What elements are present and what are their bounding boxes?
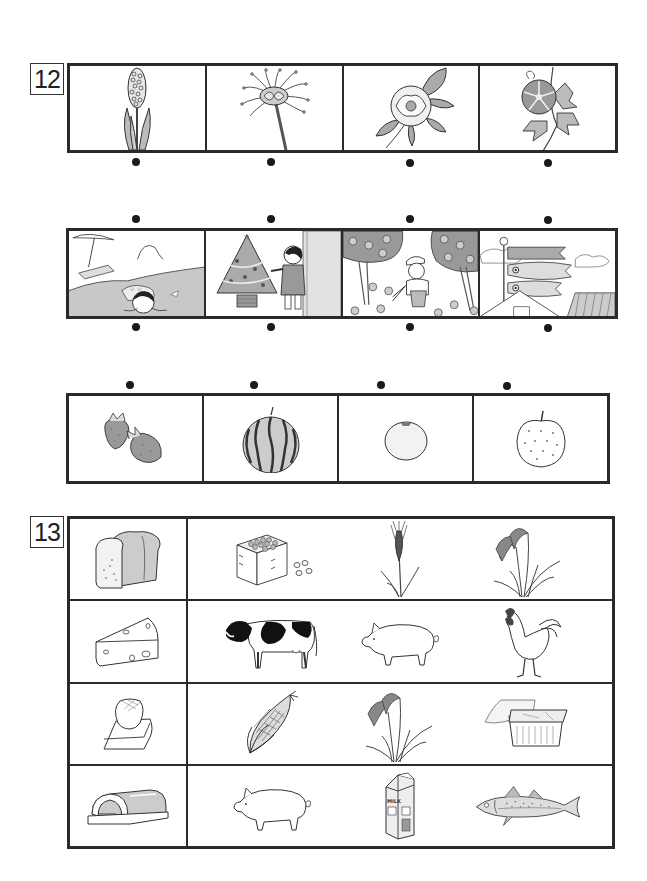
- options-area: [188, 519, 612, 599]
- options-area: [188, 684, 612, 764]
- connect-dot[interactable]: [406, 159, 414, 167]
- flower-label: hyacinth: [0, 0, 1, 1]
- option-rice-plant[interactable]: [473, 521, 583, 597]
- flower-cell-morning-glory[interactable]: [480, 66, 615, 150]
- fruits-row: [66, 393, 610, 484]
- soybean-box-icon: [227, 531, 317, 587]
- option-rooster[interactable]: [473, 603, 583, 679]
- rice-plant-icon: [488, 521, 568, 597]
- question-number-13: 13: [30, 516, 64, 548]
- mandarin-icon: [381, 416, 431, 462]
- milk-carton-icon: MILK: [380, 771, 420, 841]
- wheat-icon: [377, 521, 423, 597]
- camellia-icon: [366, 66, 456, 150]
- cheese-icon: [92, 614, 164, 668]
- tofu-icon: [483, 696, 573, 752]
- option-soybeans[interactable]: [217, 521, 327, 597]
- connect-dot[interactable]: [544, 216, 552, 224]
- scene-cell-chestnut[interactable]: [343, 231, 480, 316]
- connect-dot[interactable]: [406, 323, 414, 331]
- connect-dot[interactable]: [132, 323, 140, 331]
- fruit-cell-pear[interactable]: [474, 396, 607, 481]
- option-milk[interactable]: MILK: [345, 768, 455, 844]
- options-area: [188, 601, 612, 681]
- kamaboko-icon: [86, 784, 170, 828]
- connect-dot[interactable]: [267, 158, 275, 166]
- milk-label: MILK: [387, 798, 402, 804]
- scene-cell-christmas[interactable]: ☆: [206, 231, 343, 316]
- food-cell-cheese: [70, 601, 188, 681]
- svg-text:☆ ☆: ☆ ☆: [130, 285, 142, 291]
- fruit-cell-watermelon[interactable]: [204, 396, 339, 481]
- scene-cell-koinobori[interactable]: [480, 231, 615, 316]
- connect-dot[interactable]: [132, 215, 140, 223]
- rice-plant-icon: [360, 686, 440, 762]
- food-cell-kamaboko: [70, 766, 188, 846]
- table-row: MILK: [70, 766, 612, 846]
- connect-dot[interactable]: [267, 323, 275, 331]
- flower-cell-hyacinth[interactable]: [70, 66, 207, 150]
- spider-lily-icon: [234, 66, 314, 150]
- food-cell-bread: [70, 519, 188, 599]
- connect-dot[interactable]: [503, 382, 511, 390]
- corn-icon: [240, 691, 304, 757]
- christmas-scene-icon: ☆: [207, 231, 341, 316]
- watermelon-icon: [241, 405, 301, 473]
- fish-icon: [473, 781, 583, 831]
- cow-icon: [222, 610, 322, 672]
- table-row: [70, 684, 612, 766]
- mochi-icon: [96, 695, 160, 753]
- chestnut-scene-icon: [343, 231, 478, 316]
- flower-cell-camellia[interactable]: [344, 66, 481, 150]
- question-number-12: 12: [30, 63, 64, 95]
- pear-icon: [513, 409, 569, 469]
- flowers-row: [67, 63, 618, 153]
- strawberry-icon: [101, 411, 171, 467]
- food-cell-mochi: [70, 684, 188, 764]
- flower-cell-spider-lily[interactable]: [207, 66, 344, 150]
- option-pig[interactable]: [217, 768, 327, 844]
- morning-glory-icon: [513, 66, 583, 150]
- option-pig[interactable]: [345, 603, 455, 679]
- connect-dot[interactable]: [267, 215, 275, 223]
- koinobori-scene-icon: [480, 231, 615, 316]
- connect-dot[interactable]: [377, 381, 385, 389]
- pig-icon: [230, 780, 314, 832]
- beach-scene-icon: ☆ ☆: [69, 231, 204, 316]
- option-tofu[interactable]: [473, 686, 583, 762]
- fruit-cell-strawberry[interactable]: [69, 396, 204, 481]
- table-row: [70, 519, 612, 601]
- option-cow[interactable]: [217, 603, 327, 679]
- connect-dot[interactable]: [544, 324, 552, 332]
- table-row: [70, 601, 612, 683]
- pig-icon: [358, 615, 442, 667]
- hyacinth-icon: [107, 66, 167, 150]
- rooster-icon: [493, 603, 563, 679]
- option-corn[interactable]: [217, 686, 327, 762]
- connect-dot[interactable]: [406, 215, 414, 223]
- option-rice-plant[interactable]: [345, 686, 455, 762]
- fruit-cell-mandarin[interactable]: [339, 396, 474, 481]
- connect-dot[interactable]: [250, 381, 258, 389]
- connect-dot[interactable]: [126, 381, 134, 389]
- option-wheat[interactable]: [345, 521, 455, 597]
- connect-dot[interactable]: [544, 159, 552, 167]
- options-area: MILK: [188, 766, 612, 846]
- connect-dot[interactable]: [132, 158, 140, 166]
- seasons-row: ☆ ☆ ☆: [66, 228, 618, 319]
- food-origin-table: MILK: [67, 516, 615, 849]
- option-fish[interactable]: [473, 768, 583, 844]
- svg-text:☆: ☆: [243, 232, 250, 241]
- scene-cell-beach[interactable]: ☆ ☆: [69, 231, 206, 316]
- bread-icon: [92, 528, 164, 590]
